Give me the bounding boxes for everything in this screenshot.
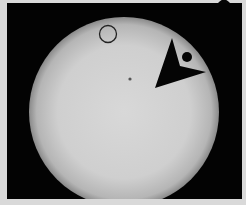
top-edge-marker	[218, 0, 230, 3]
venus-dot	[182, 52, 192, 62]
sunspot	[128, 77, 131, 80]
sun-photo	[0, 0, 246, 205]
sun-disk	[29, 17, 219, 205]
